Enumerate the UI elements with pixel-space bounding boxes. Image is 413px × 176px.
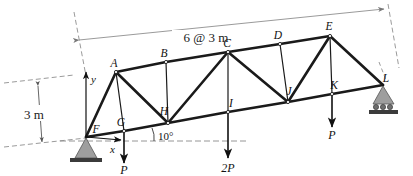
truss-svg-canvas: 6 @ 3 m 3 m 10° bbox=[0, 0, 413, 176]
height-dimension-lower-extension bbox=[4, 138, 86, 147]
angle-arc bbox=[152, 128, 154, 141]
roller-wheel-3 bbox=[387, 104, 392, 109]
joint-label-J: J bbox=[286, 85, 292, 97]
span-dimension-group: 6 @ 3 m bbox=[74, 4, 399, 76]
joint-marker-A bbox=[114, 70, 117, 73]
truss-member-CD bbox=[228, 44, 280, 52]
truss-members-layer bbox=[86, 36, 383, 137]
joint-label-E: E bbox=[324, 20, 332, 32]
joint-marker-G bbox=[122, 129, 125, 132]
roller-wheel-2 bbox=[380, 104, 385, 109]
joint-marker-H bbox=[166, 121, 169, 124]
joint-label-G: G bbox=[117, 116, 126, 128]
joint-label-K: K bbox=[329, 79, 339, 91]
roller-support-base bbox=[369, 110, 398, 114]
truss-member-EL bbox=[330, 36, 383, 85]
span-dimension-left-extension bbox=[74, 12, 86, 76]
roller-support-triangle bbox=[373, 86, 394, 104]
height-dimension-upper-extension bbox=[4, 75, 74, 83]
truss-member-AB bbox=[116, 62, 166, 72]
joint-label-L: L bbox=[382, 72, 389, 84]
joint-label-B: B bbox=[160, 47, 167, 59]
pin-support-base bbox=[70, 158, 102, 162]
truss-member-DE bbox=[280, 36, 330, 44]
height-dimension-group: 3 m bbox=[4, 75, 86, 147]
joint-marker-D bbox=[278, 42, 281, 45]
truss-member-EJ bbox=[288, 36, 330, 102]
joint-marker-C bbox=[226, 50, 229, 53]
joint-label-I: I bbox=[228, 97, 234, 109]
x-axis-arrow bbox=[86, 137, 121, 140]
truss-joint-F: F bbox=[91, 123, 100, 135]
truss-joint-L: L bbox=[382, 72, 389, 84]
roller-wheel-1 bbox=[373, 104, 378, 109]
truss-member-BC bbox=[166, 52, 228, 62]
load-I: 2P bbox=[221, 112, 235, 175]
truss-member-JK bbox=[288, 94, 332, 102]
joint-label-C: C bbox=[223, 37, 231, 49]
truss-joints-layer: ABCDEFGHIJKL bbox=[91, 20, 389, 135]
load-K-label: P bbox=[327, 128, 336, 142]
truss-joint-A: A bbox=[109, 57, 118, 74]
truss-joint-E: E bbox=[324, 20, 332, 38]
height-dimension-label: 3 m bbox=[24, 107, 44, 122]
angle-marker-group: 10° bbox=[152, 128, 173, 142]
load-K: P bbox=[327, 94, 336, 142]
joint-label-A: A bbox=[109, 57, 118, 69]
joint-marker-J bbox=[286, 100, 289, 103]
support-F bbox=[70, 138, 102, 162]
span-dimension-label: 6 @ 3 m bbox=[184, 30, 229, 45]
joint-marker-B bbox=[164, 60, 167, 63]
joint-marker-E bbox=[328, 34, 331, 37]
joint-label-F: F bbox=[91, 123, 100, 135]
x-axis-label: x bbox=[109, 143, 115, 155]
joint-label-H: H bbox=[159, 105, 169, 117]
coordinate-axes: y x bbox=[86, 72, 121, 155]
y-axis-label: y bbox=[90, 73, 96, 85]
joint-marker-I bbox=[226, 110, 229, 113]
truss-member-IJ bbox=[228, 102, 288, 112]
joint-marker-K bbox=[330, 92, 333, 95]
truss-member-CJ bbox=[228, 52, 288, 102]
angle-label: 10° bbox=[158, 130, 173, 142]
span-dimension-right-extension bbox=[388, 4, 399, 68]
load-I-label: 2P bbox=[221, 161, 235, 175]
load-G: P bbox=[119, 131, 128, 176]
load-G-label: P bbox=[119, 163, 128, 176]
joint-label-D: D bbox=[273, 29, 283, 41]
truss-joint-H: H bbox=[159, 105, 170, 125]
truss-member-KL bbox=[332, 85, 383, 94]
truss-diagram-figure: 6 @ 3 m 3 m 10° bbox=[0, 0, 413, 176]
